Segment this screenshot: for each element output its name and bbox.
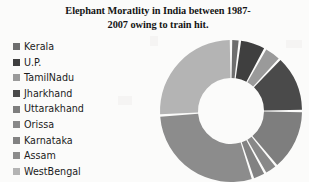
legend-item-kerala[interactable]: Kerala (13, 39, 143, 55)
legend-item-jharkhand[interactable]: Jharkhand (13, 86, 143, 102)
legend-item-label: Assam (24, 151, 56, 161)
legend-item-karnataka[interactable]: Karnataka (13, 133, 143, 149)
doughnut-chart (155, 33, 307, 182)
chart-title: Elephant Moratlity in India between 1987… (22, 4, 294, 31)
legend-swatch-icon (13, 168, 20, 175)
legend-item-label: Karnataka (24, 136, 73, 146)
legend-swatch-icon (13, 121, 20, 128)
legend-item-label: Orissa (24, 120, 54, 130)
legend-item-label: U.P. (24, 58, 41, 68)
legend-item-label: Jharkhand (24, 89, 72, 99)
chart-page: Elephant Moratlity in India between 1987… (0, 0, 309, 182)
legend-item-westbengal[interactable]: WestBengal (13, 164, 143, 180)
legend-item-label: Uttarakhand (24, 104, 84, 114)
legend-swatch-icon (13, 152, 20, 159)
legend-swatch-icon (13, 106, 20, 113)
chart-legend: Kerala U.P. TamilNadu Jharkhand Uttarakh… (13, 39, 143, 179)
chart-title-line-2: 2007 owing to train hit. (22, 18, 294, 32)
legend-item-up[interactable]: U.P. (13, 55, 143, 71)
legend-item-label: Kerala (24, 42, 54, 52)
legend-item-label: WestBengal (24, 167, 81, 177)
legend-item-assam[interactable]: Assam (13, 148, 143, 164)
pie-slice-westbengal[interactable] (160, 40, 230, 114)
legend-item-orissa[interactable]: Orissa (13, 117, 143, 133)
legend-item-tamilnadu[interactable]: TamilNadu (13, 70, 143, 86)
doughnut-chart-svg (155, 33, 307, 182)
legend-item-uttarakhand[interactable]: Uttarakhand (13, 101, 143, 117)
legend-swatch-icon (13, 43, 20, 50)
chart-title-line-1: Elephant Moratlity in India between 1987… (22, 4, 294, 18)
pie-slice-assam[interactable] (160, 114, 252, 182)
legend-swatch-icon (13, 74, 20, 81)
legend-swatch-icon (13, 90, 20, 97)
legend-swatch-icon (13, 59, 20, 66)
legend-swatch-icon (13, 137, 20, 144)
legend-item-label: TamilNadu (24, 73, 74, 83)
